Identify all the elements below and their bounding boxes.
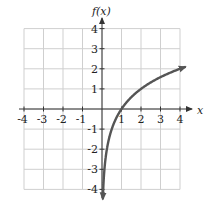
log-curve (103, 67, 185, 198)
curve (103, 67, 185, 198)
x-tick-label: -1 (76, 113, 87, 126)
y-tick-label: -2 (87, 143, 98, 156)
y-tick-label: 1 (91, 83, 98, 96)
y-tick-label: -3 (87, 163, 98, 176)
y-tick-label: 4 (91, 23, 98, 36)
y-axis-label: f(x) (91, 5, 111, 18)
x-tick-label: 4 (177, 113, 184, 126)
y-tick-label: -1 (87, 123, 98, 136)
x-tick-label: 3 (157, 113, 164, 126)
y-tick-label: 2 (91, 63, 98, 76)
x-tick-label: -3 (37, 113, 48, 126)
y-tick-label: -4 (87, 183, 98, 196)
x-axis-label: x (197, 104, 204, 117)
x-tick-label: 2 (138, 113, 145, 126)
x-tick-label: -2 (56, 113, 67, 126)
function-graph: -4-3-2-112344321-1-2-3-4 x f(x) (0, 0, 209, 209)
y-tick-label: 3 (91, 43, 98, 56)
x-tick-label: -4 (17, 113, 28, 126)
